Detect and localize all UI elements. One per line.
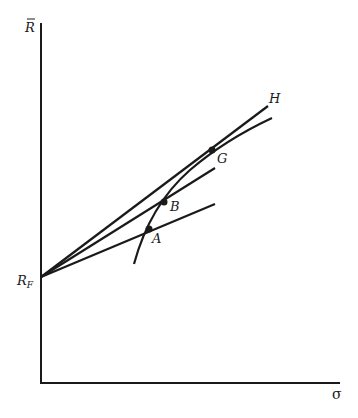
point-B-label: B [169, 199, 180, 214]
point-G-label: G [217, 151, 227, 166]
diagram-canvas: R σ RF A B G H [0, 0, 358, 418]
point-A-label: A [151, 231, 161, 246]
line-through-B [41, 168, 215, 277]
y-axis-label: R [24, 20, 35, 35]
point-G [209, 147, 216, 154]
x-axis-label: σ [332, 386, 342, 402]
line-H-label: H [268, 91, 281, 106]
intercept-label: RF [16, 273, 34, 290]
line-through-A [41, 204, 215, 277]
line-through-G-H [41, 106, 268, 277]
point-B [161, 199, 168, 206]
